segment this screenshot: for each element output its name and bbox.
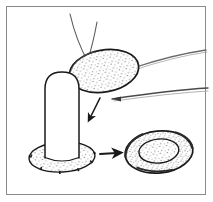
result-arrow-shaft <box>100 153 117 154</box>
post-fill <box>45 72 79 162</box>
illustration-canvas <box>0 0 213 202</box>
figure-panel: Surgical graft placement sequence illust… <box>0 0 213 202</box>
result-arrow-right <box>100 153 117 154</box>
canvas-background <box>0 0 213 202</box>
cylindrical-post <box>45 72 79 162</box>
